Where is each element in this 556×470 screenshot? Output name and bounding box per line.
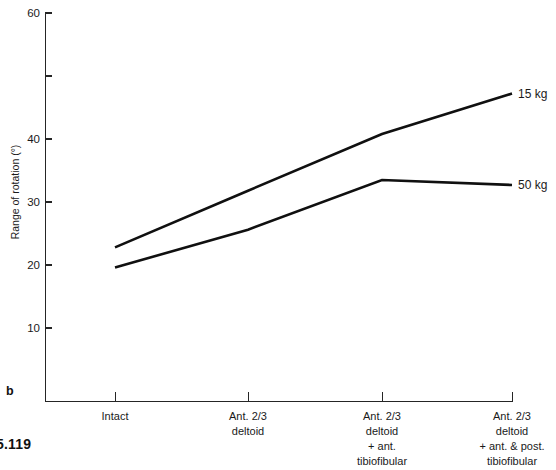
svg-text:deltoid: deltoid — [366, 425, 398, 437]
figure-number: 5.119 — [0, 436, 31, 452]
svg-text:+ ant. & post.: + ant. & post. — [479, 440, 544, 452]
svg-text:Ant. 2/3: Ant. 2/3 — [363, 410, 401, 422]
x-tick-label-ant-post-tibiofibular: Ant. 2/3 deltoid + ant. & post. tibiofib… — [479, 410, 544, 467]
series-line-50kg — [115, 180, 512, 268]
y-tick-label-30: 30 — [27, 196, 40, 208]
y-tick-label-40: 40 — [27, 133, 40, 145]
svg-text:Intact: Intact — [102, 410, 129, 422]
y-axis-title: Range of rotation (°) — [9, 145, 21, 240]
series-label-50kg: 50 kg — [518, 178, 547, 192]
line-chart: 60 40 30 20 10 Range of rotation (°) Int… — [0, 0, 556, 470]
x-tick-label-intact: Intact — [102, 410, 129, 422]
svg-text:tibiofibular: tibiofibular — [357, 455, 407, 467]
y-tick-label-20: 20 — [27, 259, 40, 271]
x-tick-label-ant-tibiofibular: Ant. 2/3 deltoid + ant. tibiofibular — [357, 410, 407, 467]
y-tick-label-60: 60 — [27, 7, 40, 19]
series-line-15kg — [115, 94, 512, 248]
svg-text:deltoid: deltoid — [232, 425, 264, 437]
svg-text:Ant. 2/3: Ant. 2/3 — [229, 410, 267, 422]
y-tick-label-10: 10 — [27, 322, 40, 334]
svg-text:tibiofibular: tibiofibular — [487, 455, 537, 467]
figure-panel: 60 40 30 20 10 Range of rotation (°) Int… — [0, 0, 556, 470]
y-tick-marks — [46, 13, 53, 328]
svg-text:Ant. 2/3: Ant. 2/3 — [493, 410, 531, 422]
series-label-15kg: 15 kg — [518, 87, 547, 101]
panel-letter: b — [6, 384, 14, 398]
svg-text:+ ant.: + ant. — [368, 440, 396, 452]
x-tick-marks — [116, 392, 513, 402]
svg-text:deltoid: deltoid — [496, 425, 528, 437]
x-tick-label-ant23-deltoid: Ant. 2/3 deltoid — [229, 410, 267, 437]
